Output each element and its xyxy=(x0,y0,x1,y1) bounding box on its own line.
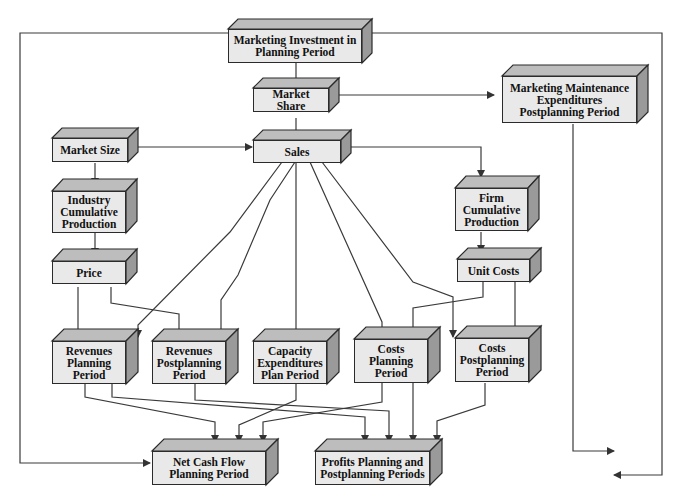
node-industry-cumulative: Industry Cumulative Production xyxy=(52,179,137,233)
node-label: Market Share xyxy=(253,88,329,112)
node-costs-planning: Costs Planning Period xyxy=(354,327,440,383)
node-label: Marketing Investment in Planning Period xyxy=(228,29,362,63)
node-label: Capacity Expenditures Plan Period xyxy=(253,341,327,384)
node-label: Revenues Postplanning Period xyxy=(152,341,226,384)
node-sales: Sales xyxy=(253,130,351,163)
node-label: Price xyxy=(52,261,126,284)
node-label: Marketing Maintenance Expenditures Postp… xyxy=(502,76,637,123)
node-capacity-expenditures: Capacity Expenditures Plan Period xyxy=(253,329,339,384)
node-label: Net Cash Flow Planning Period xyxy=(152,451,266,485)
node-label: Industry Cumulative Production xyxy=(52,191,126,233)
node-marketing-investment: Marketing Investment in Planning Period xyxy=(228,19,372,63)
node-revenues-postplanning: Revenues Postplanning Period xyxy=(152,329,238,384)
node-market-share: Market Share xyxy=(253,78,339,112)
node-label: Costs Planning Period xyxy=(354,339,428,383)
node-revenues-planning: Revenues Planning Period xyxy=(52,329,138,384)
node-profits: Profits Planning and Postplanning Period… xyxy=(315,439,442,485)
node-firm-cumulative: Firm Cumulative Production xyxy=(455,176,539,231)
node-label: Costs Postplanning Period xyxy=(455,338,529,382)
node-label: Market Size xyxy=(52,138,128,162)
node-label: Firm Cumulative Production xyxy=(455,188,528,231)
node-label: Profits Planning and Postplanning Period… xyxy=(315,451,430,485)
node-marketing-maintenance: Marketing Maintenance Expenditures Postp… xyxy=(502,65,648,123)
node-price: Price xyxy=(52,249,137,284)
flowchart: Marketing Investment in Planning Period … xyxy=(0,0,679,500)
node-costs-postplanning: Costs Postplanning Period xyxy=(455,326,541,382)
node-label: Sales xyxy=(253,140,341,163)
node-net-cash-flow: Net Cash Flow Planning Period xyxy=(152,439,278,485)
node-label: Revenues Planning Period xyxy=(52,341,126,384)
node-market-size: Market Size xyxy=(52,128,138,162)
node-label: Unit Costs xyxy=(457,259,530,282)
node-unit-costs: Unit Costs xyxy=(457,248,541,282)
